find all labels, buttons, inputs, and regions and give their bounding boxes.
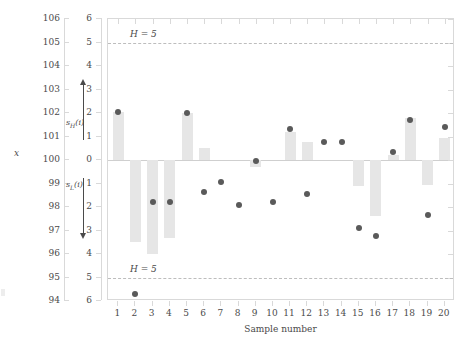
panel-top-tick	[359, 19, 360, 24]
secondary-cusum-tick	[96, 159, 101, 160]
primary-y-tick	[64, 206, 69, 207]
observation-point	[270, 199, 276, 205]
x-tick	[375, 301, 376, 306]
x-tick	[409, 301, 410, 306]
secondary-cusum-tick	[96, 206, 101, 207]
observation-point	[442, 124, 448, 130]
secondary-cusum-tick-label: 6	[74, 296, 92, 305]
cusum-bar	[388, 155, 399, 160]
panel-top-tick	[324, 19, 325, 24]
panel-top-tick	[221, 19, 222, 24]
panel-right-tick	[448, 66, 453, 67]
x-tick	[238, 301, 239, 306]
primary-y-tick-label: 100	[32, 155, 60, 164]
secondary-cusum-tick	[96, 136, 101, 137]
primary-y-tick-label: 101	[32, 132, 60, 141]
primary-y-tick	[64, 277, 69, 278]
secondary-cusum-tick	[96, 230, 101, 231]
annotation-arrow-shaft	[83, 178, 84, 234]
primary-y-tick-label: 105	[32, 38, 60, 47]
zero-reference-line	[108, 160, 453, 161]
panel-top-tick	[410, 19, 411, 24]
panel-right-tick	[448, 90, 453, 91]
annotation-label-s-low: sL(i)	[66, 180, 83, 191]
observation-point	[201, 189, 207, 195]
primary-y-tick-label: 98	[32, 202, 60, 211]
cusum-control-chart-figure: x 106105104103102101100999897969594 6543…	[0, 0, 470, 338]
annotation-arrow-head	[80, 79, 86, 85]
panel-top-tick	[290, 19, 291, 24]
x-tick	[220, 301, 221, 306]
annotation-arrow-head	[80, 233, 86, 239]
x-tick	[255, 301, 256, 306]
cusum-bar	[422, 160, 433, 185]
panel-top-tick	[393, 19, 394, 24]
x-tick	[134, 301, 135, 306]
panel-top-tick	[307, 19, 308, 24]
primary-y-tick	[64, 253, 69, 254]
panel-right-tick	[448, 113, 453, 114]
secondary-cusum-tick	[96, 300, 101, 301]
primary-y-tick	[64, 300, 69, 301]
observation-point	[236, 202, 242, 208]
plot-area: H = 5H = 5	[107, 18, 454, 300]
cusum-bar	[370, 160, 381, 216]
annotation-label-s-high: sH(i)	[66, 118, 84, 129]
cusum-bar	[130, 160, 141, 242]
panel-top-tick	[428, 19, 429, 24]
primary-y-tick-label: 97	[32, 226, 60, 235]
x-tick	[392, 301, 393, 306]
cusum-bar	[353, 160, 364, 186]
secondary-cusum-tick-label: 5	[74, 273, 92, 282]
cusum-bar	[147, 160, 158, 254]
primary-y-tick-label: 99	[32, 179, 60, 188]
panel-top-tick	[273, 19, 274, 24]
secondary-cusum-tick	[96, 112, 101, 113]
x-tick-label: 20	[434, 309, 454, 318]
observation-point	[373, 233, 379, 239]
primary-y-tick	[64, 112, 69, 113]
secondary-cusum-tick-label: 4	[74, 249, 92, 258]
primary-y-tick	[64, 18, 69, 19]
x-tick	[203, 301, 204, 306]
x-axis-title: Sample number	[107, 324, 454, 334]
panel-top-tick	[256, 19, 257, 24]
panel-top-tick	[445, 19, 446, 24]
x-tick	[186, 301, 187, 306]
panel-top-tick	[118, 19, 119, 24]
cusum-bar	[439, 138, 450, 160]
panel-top-tick	[376, 19, 377, 24]
cusum-bar	[182, 113, 193, 160]
x-tick	[117, 301, 118, 306]
primary-y-tick	[64, 136, 69, 137]
page-edge-artifact	[1, 289, 5, 296]
secondary-cusum-tick	[96, 277, 101, 278]
primary-y-axis-title: x	[14, 148, 19, 158]
panel-top-tick	[239, 19, 240, 24]
panel-right-tick	[448, 207, 453, 208]
decision-limit-label-lower: H = 5	[130, 264, 157, 274]
observation-point	[184, 110, 190, 116]
panel-top-tick	[187, 19, 188, 24]
secondary-cusum-axis-line	[101, 18, 102, 300]
secondary-cusum-tick	[96, 65, 101, 66]
panel-right-tick	[448, 19, 453, 20]
panel-top-tick	[170, 19, 171, 24]
observation-point	[339, 139, 345, 145]
panel-top-tick	[153, 19, 154, 24]
x-tick	[358, 301, 359, 306]
secondary-cusum-tick-label: 6	[74, 14, 92, 23]
x-tick	[289, 301, 290, 306]
primary-y-tick	[64, 42, 69, 43]
secondary-cusum-tick-label: 5	[74, 38, 92, 47]
primary-y-tick-label: 94	[32, 296, 60, 305]
decision-limit-line-upper	[108, 43, 453, 44]
x-tick	[169, 301, 170, 306]
primary-y-tick-label: 96	[32, 249, 60, 258]
decision-limit-line-lower	[108, 278, 453, 279]
x-tick	[323, 301, 324, 306]
primary-y-tick	[64, 159, 69, 160]
primary-y-tick-label: 104	[32, 61, 60, 70]
secondary-cusum-tick	[96, 253, 101, 254]
secondary-cusum-tick	[96, 89, 101, 90]
